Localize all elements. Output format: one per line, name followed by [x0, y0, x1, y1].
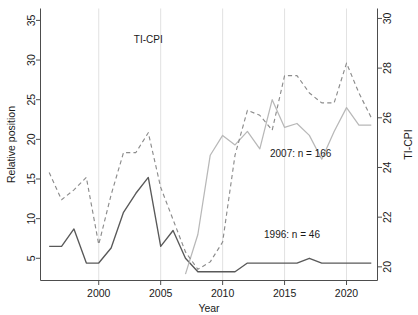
- y-axis-title-right: TI-CPI: [402, 129, 414, 159]
- y2-tick-label-24: 24: [382, 161, 394, 173]
- y-tick-label-35: 35: [26, 14, 38, 26]
- x-tick-label-2020: 2020: [335, 287, 359, 299]
- x-axis-title: Year: [198, 302, 220, 314]
- y-tick-label-20: 20: [26, 133, 38, 145]
- chart-root: 2000200520102015202051015202530352022242…: [0, 0, 418, 315]
- y2-tick-label-20: 20: [382, 261, 394, 273]
- y2-tick-label-26: 26: [382, 112, 394, 124]
- y2-tick-label-30: 30: [382, 12, 394, 24]
- y-tick-label-10: 10: [26, 213, 38, 225]
- x-tick-label-2005: 2005: [149, 287, 173, 299]
- annotation-2: 1996: n = 46: [264, 229, 320, 240]
- y-axis-title-left: Relative position: [5, 106, 17, 183]
- chart-background: [0, 0, 418, 315]
- x-tick-label-2000: 2000: [87, 287, 111, 299]
- x-tick-label-2015: 2015: [273, 287, 297, 299]
- y-tick-label-25: 25: [26, 94, 38, 106]
- x-tick-label-2010: 2010: [211, 287, 235, 299]
- relative-position-ticpi-line-chart: 2000200520102015202051015202530352022242…: [0, 0, 418, 315]
- annotation-0: TI-CPI: [134, 34, 163, 45]
- y-tick-label-5: 5: [26, 255, 38, 261]
- annotation-1: 2007: n = 166: [270, 148, 332, 159]
- y-tick-label-15: 15: [26, 173, 38, 185]
- y2-tick-label-22: 22: [382, 211, 394, 223]
- y2-tick-label-28: 28: [382, 62, 394, 74]
- y-tick-label-30: 30: [26, 54, 38, 66]
